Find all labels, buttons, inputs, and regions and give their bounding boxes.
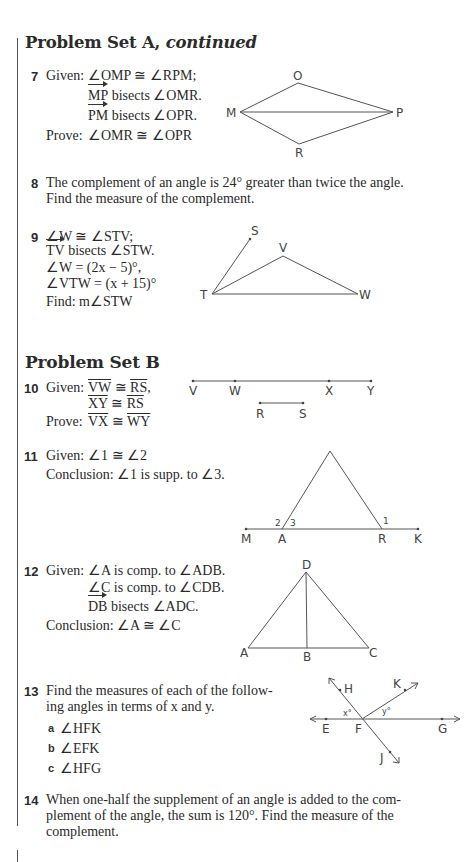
label-k: K <box>414 532 423 546</box>
label-d: D <box>302 558 311 572</box>
label-a: A <box>278 532 287 546</box>
diagram-kite-ompr <box>240 83 393 144</box>
label-x: X <box>325 384 333 398</box>
label-v: V <box>279 241 288 255</box>
label-o: O <box>293 69 302 83</box>
label-f: F <box>355 722 362 736</box>
label-b: B <box>303 650 311 664</box>
label-angle-y: y° <box>382 707 391 716</box>
label-w: W <box>359 288 371 302</box>
label-m: M <box>241 532 251 546</box>
diagram-rays-efg <box>310 678 460 763</box>
label-s: S <box>299 407 307 421</box>
label-k: K <box>393 677 402 691</box>
diagram-triangle-mark <box>246 451 418 529</box>
label-v: V <box>189 384 198 398</box>
label-e: E <box>322 722 330 736</box>
label-t: T <box>199 288 208 302</box>
label-p: P <box>396 106 403 120</box>
label-m: M <box>226 106 236 120</box>
label-angle-2: 2 <box>275 518 281 528</box>
label-j: J <box>379 751 384 765</box>
label-h: H <box>344 682 353 696</box>
diagrams: O M P R S V T W V W X Y R S M A R K 2 3 … <box>0 0 473 862</box>
label-s: S <box>251 224 259 238</box>
diagram-triangle-adc <box>248 572 369 648</box>
label-angle-x: x° <box>343 709 352 718</box>
label-r: R <box>295 146 303 160</box>
label-w: W <box>229 384 241 398</box>
label-angle-1: 1 <box>383 516 389 526</box>
label-angle-3: 3 <box>290 518 296 528</box>
diagram-segments-vwxy <box>193 381 371 403</box>
label-g: G <box>438 722 447 736</box>
label-y: Y <box>366 384 375 398</box>
label-r: R <box>256 407 264 421</box>
label-a: A <box>240 646 249 660</box>
label-r: R <box>378 532 386 546</box>
label-c: C <box>369 646 377 660</box>
